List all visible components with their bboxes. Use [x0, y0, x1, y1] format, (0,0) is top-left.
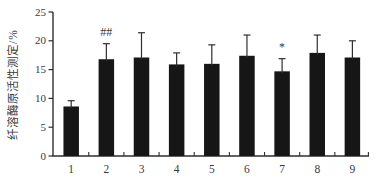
x-category-label: 8 [314, 163, 320, 175]
bar [169, 64, 185, 156]
y-tick-label: 10 [35, 92, 47, 104]
y-tick-label: 25 [35, 6, 47, 18]
y-tick-label: 15 [35, 63, 47, 75]
x-category-label: 1 [68, 163, 74, 175]
bar [239, 56, 255, 156]
bar [310, 53, 326, 156]
x-category-label: 2 [103, 163, 109, 175]
y-axis-label: 纤溶酶原活性测定/% [6, 17, 21, 153]
x-category-label: 7 [279, 163, 285, 175]
bar [99, 59, 115, 156]
x-category-label: 9 [350, 163, 356, 175]
bar [63, 106, 78, 156]
bar [274, 71, 290, 156]
bar [204, 64, 220, 156]
significance-annotation: ## [100, 25, 112, 39]
y-tick-label: 0 [41, 150, 47, 162]
x-category-label: 3 [139, 163, 145, 175]
significance-annotation: * [279, 40, 285, 54]
bar-chart: 0510152025123456789##* [0, 0, 376, 187]
y-tick-label: 5 [41, 121, 47, 133]
bar [345, 58, 361, 156]
bar [134, 58, 150, 156]
x-category-label: 6 [244, 163, 250, 175]
x-category-label: 5 [209, 163, 215, 175]
x-category-label: 4 [174, 163, 180, 175]
bar-chart-figure: 0510152025123456789##* 纤溶酶原活性测定/% [0, 0, 376, 187]
y-tick-label: 20 [35, 34, 47, 46]
